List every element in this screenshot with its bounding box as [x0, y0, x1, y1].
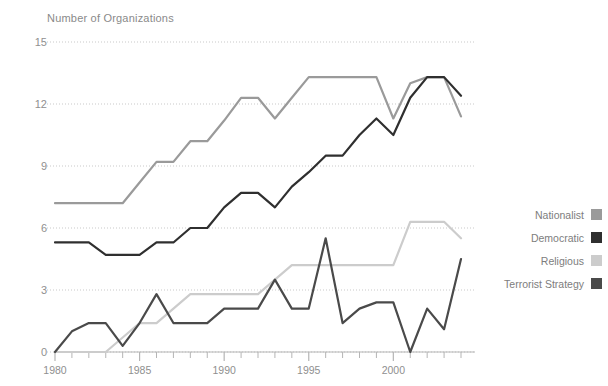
series-line-religious [55, 222, 461, 352]
line-chart-plot [0, 0, 608, 386]
legend-item-label: Nationalist [535, 209, 584, 221]
chart-page: Number of Organizations 03691215 1980198… [0, 0, 608, 386]
series-line-nationalist [55, 77, 461, 203]
y-axis-tick-label: 9 [23, 160, 47, 172]
legend-item-label: Terrorist Strategy [504, 278, 584, 290]
y-axis-tick-label: 6 [23, 222, 47, 234]
x-axis-tick-label: 1980 [43, 364, 66, 376]
legend-color-swatch [591, 278, 602, 289]
x-axis-minor-ticks [55, 352, 461, 361]
x-axis-tick-label: 2000 [382, 364, 405, 376]
legend-color-swatch [591, 209, 602, 220]
x-axis-tick-label: 1990 [212, 364, 235, 376]
legend-item[interactable]: Democratic [480, 226, 602, 249]
y-axis-tick-label: 12 [23, 98, 47, 110]
legend-item[interactable]: Nationalist [480, 203, 602, 226]
data-series-group [55, 77, 461, 352]
x-axis-tick-label: 1995 [297, 364, 320, 376]
y-axis-tick-label: 15 [23, 36, 47, 48]
chart-legend: NationalistDemocraticReligiousTerrorist … [480, 203, 602, 295]
legend-item[interactable]: Religious [480, 249, 602, 272]
legend-color-swatch [591, 255, 602, 266]
legend-item-label: Religious [541, 255, 584, 267]
legend-color-swatch [591, 232, 602, 243]
x-axis-tick-label: 1985 [128, 364, 151, 376]
y-axis-tick-label: 0 [23, 346, 47, 358]
legend-item[interactable]: Terrorist Strategy [480, 272, 602, 295]
y-axis-tick-label: 3 [23, 284, 47, 296]
legend-item-label: Democratic [531, 232, 584, 244]
